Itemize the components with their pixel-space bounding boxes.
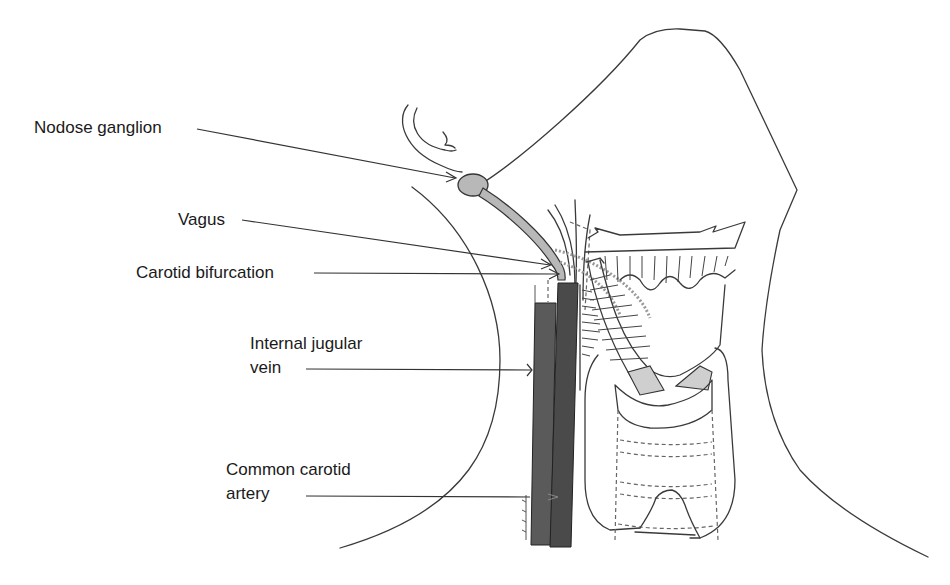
sternal-base xyxy=(635,532,695,535)
label-text: Common carotid xyxy=(226,460,351,480)
tracheal-ring xyxy=(620,440,712,445)
label-nodose-ganglion: Nodose ganglion xyxy=(34,118,162,138)
label-text: artery xyxy=(226,484,351,504)
trachea-outline-right xyxy=(712,410,718,540)
hyoid-wavy-outline xyxy=(620,270,735,290)
label-internal-jugular-vein: Internal jugular vein xyxy=(250,334,362,378)
leader-carotid-bifurcation xyxy=(314,273,558,274)
ear-outline xyxy=(403,105,462,172)
label-text: Nodose ganglion xyxy=(34,118,162,137)
label-text: vein xyxy=(250,358,362,378)
label-common-carotid-artery: Common carotid artery xyxy=(226,460,351,504)
label-text: Internal jugular xyxy=(250,334,362,354)
tracheal-ring xyxy=(620,494,712,499)
label-text: Vagus xyxy=(178,210,225,229)
leader-vagus xyxy=(242,220,550,265)
scribble-mark xyxy=(522,495,526,540)
mandible-outline xyxy=(585,222,745,252)
ear-inner-outline xyxy=(414,108,456,151)
leader-lines xyxy=(197,129,559,497)
trachea-outline-left xyxy=(615,410,618,540)
thyroid-lobe-left xyxy=(585,355,640,530)
label-text: Carotid bifurcation xyxy=(136,263,274,282)
cricothyroid-left xyxy=(628,366,664,395)
neck-anatomy-illustration xyxy=(0,0,950,585)
label-carotid-bifurcation: Carotid bifurcation xyxy=(136,263,274,283)
tracheal-ring xyxy=(620,452,712,457)
anatomy-diagram: Nodose ganglion Vagus Carotid bifurcatio… xyxy=(0,0,950,585)
thyrohyoid-hatch xyxy=(590,275,650,360)
label-vagus: Vagus xyxy=(178,210,225,230)
neck-outline-left xyxy=(340,187,500,548)
mandible-hatch xyxy=(605,256,728,283)
ear-detail xyxy=(443,132,455,148)
vagus-nerve-shape xyxy=(479,188,565,280)
superior-laryngeal-nerve xyxy=(588,262,645,381)
leader-nodose-ganglion xyxy=(197,129,455,178)
tracheal-ring xyxy=(620,482,712,487)
